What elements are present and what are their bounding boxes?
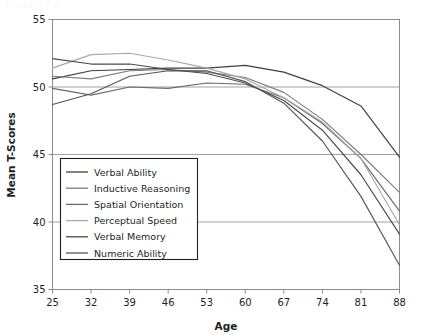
y-tick-label: 45 bbox=[33, 149, 46, 160]
legend-label-numeric-ability: Numeric Ability bbox=[94, 248, 167, 259]
legend-label-perceptual-speed: Perceptual Speed bbox=[94, 215, 177, 226]
x-axis-ticks: 25323946536067748188 bbox=[46, 290, 406, 308]
x-tick-label: 67 bbox=[277, 297, 290, 308]
x-tick-label: 88 bbox=[393, 297, 406, 308]
x-tick-label: 39 bbox=[123, 297, 136, 308]
y-axis-title: Mean T-Scores bbox=[5, 112, 17, 197]
x-axis-title: Age bbox=[215, 320, 238, 332]
series-line-verbal-ability bbox=[53, 65, 400, 157]
x-tick-label: 46 bbox=[162, 297, 175, 308]
x-tick-label: 74 bbox=[316, 297, 329, 308]
chart-container: FIGURE 7.4 3540455055 253239465360677481… bbox=[0, 0, 423, 335]
legend: Verbal AbilityInductive ReasoningSpatial… bbox=[61, 159, 198, 260]
x-tick-label: 25 bbox=[46, 297, 59, 308]
y-axis-ticks: 3540455055 bbox=[33, 14, 53, 295]
legend-label-inductive-reasoning: Inductive Reasoning bbox=[94, 183, 190, 194]
y-tick-label: 50 bbox=[33, 82, 46, 93]
line-chart-svg: 3540455055 25323946536067748188 Mean T-S… bbox=[0, 0, 423, 335]
x-tick-label: 60 bbox=[239, 297, 252, 308]
x-tick-label: 53 bbox=[200, 297, 213, 308]
legend-label-spatial-orientation: Spatial Orientation bbox=[94, 199, 183, 210]
legend-label-verbal-memory: Verbal Memory bbox=[94, 231, 166, 242]
y-tick-label: 35 bbox=[33, 284, 46, 295]
y-tick-label: 55 bbox=[33, 14, 46, 25]
y-tick-label: 40 bbox=[33, 217, 46, 228]
x-tick-label: 81 bbox=[355, 297, 368, 308]
legend-label-verbal-ability: Verbal Ability bbox=[94, 167, 157, 178]
x-tick-label: 32 bbox=[85, 297, 98, 308]
